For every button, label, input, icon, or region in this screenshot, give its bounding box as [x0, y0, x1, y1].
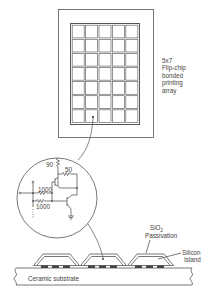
array-cell — [86, 39, 98, 52]
array-cell — [86, 96, 98, 109]
silicon-island-label: Silicon Island — [182, 249, 201, 264]
solder-bump — [99, 266, 106, 269]
resistor-1000-upper-label: 1000 — [38, 186, 52, 193]
array-grid-border — [71, 24, 140, 125]
array-cell — [72, 68, 84, 81]
array-cell — [126, 110, 138, 123]
solder-bump — [135, 266, 142, 269]
solder-bump — [88, 266, 95, 269]
array-label-line: printing — [162, 79, 186, 86]
array-cell — [72, 110, 84, 123]
resistor-50-label: 50 — [65, 166, 72, 173]
array-label-line: 5x7 — [162, 57, 186, 64]
array-cell — [86, 82, 98, 95]
input-terminal-left — [19, 192, 21, 194]
ceramic-substrate-label: Ceramic substrate — [28, 275, 79, 282]
flip-chip-diagram: 5x7 Flip-chip bonded printing array 90 5… — [0, 0, 207, 297]
array-cell — [99, 110, 111, 123]
array-cell — [72, 82, 84, 95]
passivation-pointer — [146, 240, 150, 253]
array-cell — [99, 68, 111, 81]
solder-bump — [63, 266, 70, 269]
array-cell — [99, 82, 111, 95]
array-cell — [72, 96, 84, 109]
array-cell — [99, 96, 111, 109]
array-cell — [86, 25, 98, 38]
array-description: 5x7 Flip-chip bonded printing array — [162, 57, 186, 94]
solder-bump — [52, 266, 59, 269]
silicon-island-line: Island — [182, 256, 201, 263]
resistor-50 — [58, 173, 77, 189]
array-cell — [126, 96, 138, 109]
diagram-drawing — [0, 0, 207, 297]
array-label-line: bonded — [162, 72, 186, 79]
array-label-line: Flip-chip — [162, 64, 186, 71]
array-cell — [126, 53, 138, 66]
silicon-island-line: Silicon — [182, 249, 201, 256]
array-cell — [126, 39, 138, 52]
silicon-island — [84, 257, 123, 266]
array-cell — [112, 68, 124, 81]
array-cell — [99, 53, 111, 66]
array-cell — [112, 53, 124, 66]
island-pointer-dot — [102, 258, 104, 260]
array-cell — [112, 110, 124, 123]
array-cell — [86, 68, 98, 81]
highlighted-cell-dot — [92, 116, 94, 118]
array-cell — [86, 53, 98, 66]
circuit-magnifier-circle — [17, 158, 97, 238]
array-grid — [72, 25, 138, 122]
passivation-layer — [34, 254, 79, 265]
sio2-text: SiO — [150, 224, 161, 231]
solder-bump — [146, 266, 153, 269]
passivation-label: Passivation — [145, 232, 177, 239]
array-cell — [126, 25, 138, 38]
resistor-90-label: 90 — [46, 161, 53, 168]
array-cell — [112, 82, 124, 95]
array-cell — [112, 96, 124, 109]
array-cell — [99, 25, 111, 38]
silicon-island — [37, 257, 76, 266]
array-cell — [99, 39, 111, 52]
array-cell — [72, 39, 84, 52]
array-cell — [112, 39, 124, 52]
array-cell — [72, 53, 84, 66]
resistor-1000-lower-label: 1000 — [36, 203, 50, 210]
solder-bump — [157, 266, 164, 269]
resistor-90 — [57, 158, 60, 170]
input-terminal-top — [32, 181, 34, 183]
solder-bump — [110, 266, 117, 269]
solder-bump — [41, 266, 48, 269]
ground-symbol — [68, 216, 74, 219]
array-cell — [72, 25, 84, 38]
array-cell — [126, 82, 138, 95]
array-cell — [126, 68, 138, 81]
array-cell — [86, 110, 98, 123]
array-label-line: array — [162, 87, 186, 94]
array-cell — [112, 25, 124, 38]
leader-line-island — [88, 224, 103, 258]
passivation-layer — [128, 254, 173, 265]
